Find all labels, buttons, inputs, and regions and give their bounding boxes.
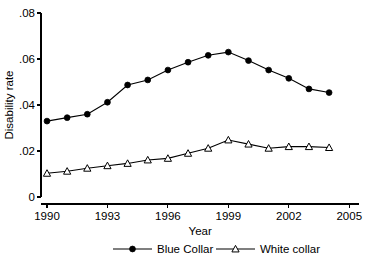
line-chart: 0.02.04.06.08Disability rate199019931996… [0,0,371,263]
chart-figure: 0.02.04.06.08Disability rate199019931996… [0,0,371,263]
x-tick-label: 2005 [336,210,362,222]
y-tick-label: .02 [19,145,35,157]
x-tick-label: 1990 [34,210,60,222]
legend-label: White collar [260,243,320,255]
data-point-marker [266,67,272,73]
x-tick-label: 1993 [95,210,121,222]
chart-series [43,49,332,176]
x-tick-label: 2002 [276,210,302,222]
data-point-marker [44,118,50,124]
y-axis-title: Disability rate [3,70,15,139]
series-white-collar [43,136,332,176]
y-tick-label: .06 [19,53,35,65]
data-point-marker [205,145,212,152]
x-axis-title: Year [189,225,212,237]
data-point-marker [225,49,231,55]
data-point-marker [225,136,232,143]
series-blue-collar [44,49,332,124]
y-tick-label: .04 [19,99,36,111]
legend-label: Blue Collar [157,243,213,255]
y-tick-label: 0 [29,191,35,203]
data-point-marker [125,82,131,88]
data-point-marker [145,77,151,83]
legend-item-white-collar[interactable]: White collar [216,243,320,255]
y-tick-label: .08 [19,7,35,19]
data-point-marker [306,86,312,92]
legend-marker [130,246,136,252]
data-point-marker [205,52,211,58]
data-point-marker [246,58,252,64]
data-point-marker [286,75,292,81]
x-tick-label: 1999 [216,210,242,222]
x-tick-label: 1996 [155,210,181,222]
legend-item-blue-collar[interactable]: Blue Collar [113,243,213,255]
data-point-marker [165,67,171,73]
data-point-marker [64,115,70,121]
chart-legend[interactable]: Blue CollarWhite collar [113,243,320,255]
chart-axes: 0.02.04.06.08Disability rate199019931996… [3,7,362,237]
data-point-marker [105,99,111,105]
data-point-marker [326,90,332,96]
data-point-marker [185,59,191,65]
data-point-marker [84,111,90,117]
